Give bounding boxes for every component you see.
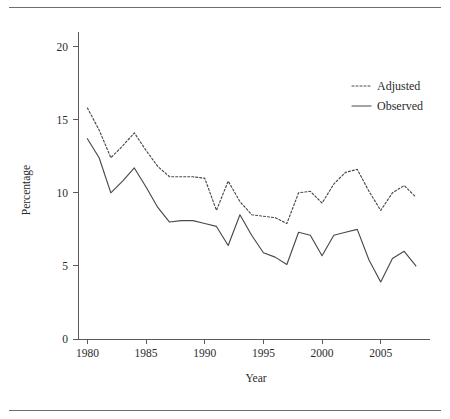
y-axis-title: Percentage bbox=[20, 165, 33, 215]
y-tick-label: 10 bbox=[57, 187, 69, 199]
y-tick-label: 0 bbox=[62, 333, 68, 345]
x-tick-label: 1980 bbox=[76, 347, 99, 359]
y-tick-label: 20 bbox=[57, 41, 69, 53]
line-chart: 05101520 198019851990199520002005 Percen… bbox=[0, 0, 450, 419]
data-series-group bbox=[87, 108, 416, 282]
x-axis-title: Year bbox=[245, 372, 266, 384]
series-line-observed bbox=[87, 139, 416, 282]
legend-label-observed: Observed bbox=[377, 99, 423, 113]
x-tick-label: 2005 bbox=[369, 347, 392, 359]
x-tick-label: 2000 bbox=[311, 347, 334, 359]
x-tick-label: 1985 bbox=[135, 347, 158, 359]
series-line-adjusted bbox=[87, 108, 416, 223]
y-tick-label: 15 bbox=[57, 114, 69, 126]
x-tick-label: 1995 bbox=[252, 347, 275, 359]
x-axis-ticks: 198019851990199520002005 bbox=[76, 339, 393, 359]
y-axis-ticks: 05101520 bbox=[57, 41, 79, 345]
y-tick-label: 5 bbox=[62, 260, 68, 272]
figure-container: 05101520 198019851990199520002005 Percen… bbox=[0, 0, 450, 419]
chart-legend: Adjusted Observed bbox=[352, 79, 423, 113]
legend-label-adjusted: Adjusted bbox=[377, 79, 420, 93]
x-tick-label: 1990 bbox=[193, 347, 216, 359]
